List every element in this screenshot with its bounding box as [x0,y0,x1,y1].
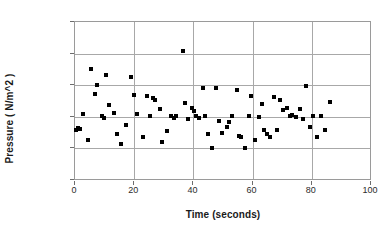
data-point [201,86,205,90]
x-axis-tick-mark [74,181,75,185]
data-point [78,127,82,131]
x-axis-tick-label: 100 [350,186,390,195]
data-point [86,138,90,142]
data-point [104,73,108,77]
gridline-vertical [134,22,135,179]
gridline-vertical [193,22,194,179]
data-point [275,128,279,132]
data-point [141,135,145,139]
data-point [319,114,323,118]
x-axis-tick-label: 20 [113,186,153,195]
data-point [132,93,136,97]
data-point [192,109,196,113]
data-point [301,117,305,121]
data-point [115,132,119,136]
gridline-horizontal [75,117,370,118]
gridline-horizontal [75,85,370,86]
data-point [210,146,214,150]
data-point [102,116,106,120]
data-point [174,114,178,118]
data-point [262,128,266,132]
data-point [268,135,272,139]
x-axis-tick-label: 60 [232,186,272,195]
data-point [181,49,185,53]
x-axis-tick-mark [252,181,253,185]
data-point [235,88,239,92]
data-point [230,114,234,118]
gridline-vertical [253,22,254,179]
data-point [158,107,162,111]
gridline-vertical [312,22,313,179]
gridline-horizontal [75,54,370,55]
data-point [311,114,315,118]
x-axis-tick-mark [133,181,134,185]
scatter-chart-figure: Pressure ( N/m^2 ) Time (seconds) 050001… [0,0,392,237]
data-point [186,117,190,121]
data-point [298,107,302,111]
data-point [285,106,289,110]
data-point [119,142,123,146]
data-point [165,129,169,133]
data-point [129,75,133,79]
data-point [272,95,276,99]
data-point [257,115,261,119]
data-point [225,125,229,129]
data-point [249,94,253,98]
data-point [227,120,231,124]
x-axis-tick-mark [311,181,312,185]
data-point [206,132,210,136]
data-point [294,115,298,119]
data-point [304,84,308,88]
data-point [203,114,207,118]
data-point [135,112,139,116]
data-point [107,103,111,107]
x-axis-tick-mark [192,181,193,185]
data-point [160,140,164,144]
data-point [148,114,152,118]
data-point [95,83,99,87]
data-point [278,98,282,102]
y-axis-title: Pressure ( N/m^2 ) [0,0,18,237]
data-point [253,138,257,142]
data-point [145,94,149,98]
data-point [153,98,157,102]
x-axis-title: Time (seconds) [74,209,372,220]
x-axis-tick-label: 40 [172,186,212,195]
data-point [220,131,224,135]
data-point [315,135,319,139]
data-point [93,92,97,96]
data-point [81,112,85,116]
data-point [239,135,243,139]
data-point [183,101,187,105]
data-point [323,128,327,132]
plot-area [74,21,371,180]
data-point [328,100,332,104]
x-axis-tick-label: 0 [54,186,94,195]
data-point [217,119,221,123]
data-point [308,125,312,129]
data-point [243,146,247,150]
x-axis-tick-label: 80 [291,186,331,195]
gridline-horizontal [75,148,370,149]
data-point [112,111,116,115]
data-point [124,123,128,127]
data-point [197,116,201,120]
data-point [214,86,218,90]
data-point [260,102,264,106]
data-point [89,67,93,71]
x-axis-tick-mark [370,181,371,185]
data-point [247,114,251,118]
